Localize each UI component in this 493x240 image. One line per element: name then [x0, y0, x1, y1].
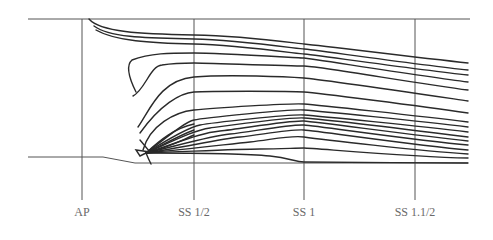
hull-curve — [146, 153, 151, 164]
station-label-ss-1-half: SS 1.1/2 — [395, 205, 436, 220]
hull-curve — [94, 26, 468, 70]
station-label-ss-half: SS 1/2 — [178, 205, 210, 220]
station-label-ap: AP — [74, 205, 89, 220]
station-label-ss-1: SS 1 — [293, 205, 315, 220]
frame-lines — [28, 19, 470, 200]
hull-curve — [129, 53, 468, 92]
hull-curves — [89, 19, 468, 164]
hull-lines-diagram — [0, 0, 493, 240]
hull-curve — [96, 30, 468, 75]
